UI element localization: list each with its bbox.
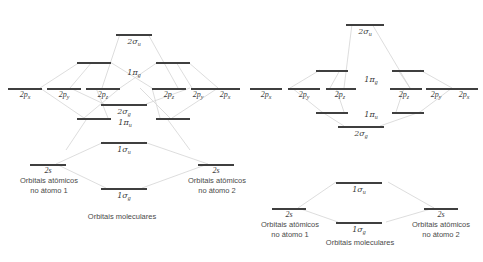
label-ao-right-2s: 2s (198, 166, 234, 176)
label-r-mo-1pi-u: 1πu (350, 110, 392, 120)
caption-right-molecular: Orbitais moleculares (300, 238, 420, 248)
level-mo-1sigma-u (101, 142, 147, 144)
label-mo-1pi-g: 1πg (113, 68, 155, 78)
label-r-mo-1pi-g: 1πg (350, 75, 392, 85)
caption-left-atom1: Orbitais atômicos no átomo 1 (4, 176, 94, 196)
caption-left-atom1-line2: no átomo 1 (4, 186, 94, 196)
level-mo-1pi-g-a (77, 62, 111, 64)
caption-left-molecular: Orbitais moleculares (62, 212, 182, 222)
level-mo-1pi-g-b (156, 62, 190, 64)
label-ao-left-2py: 2py (47, 90, 81, 100)
label-ao-left-2pz: 2pz (86, 90, 120, 100)
label-ao-left-2s: 2s (30, 166, 66, 176)
level-r-mo-2sigma-g (338, 126, 384, 128)
label-r-ao-left-2pz: 2pz (324, 90, 356, 100)
label-mo-1sigma-u: 1σu (104, 145, 144, 155)
level-r-mo-1pi-g-b (392, 70, 424, 72)
level-mo-1pi-u-b (156, 118, 190, 120)
label-r-mo-1sigma-g: 1σg (339, 225, 379, 235)
label-r-mo-1sigma-u: 1σu (339, 185, 379, 195)
caption-right-atom1: Orbitais atômicos no átomo 1 (245, 220, 335, 240)
level-r-mo-1pi-u-b (392, 112, 424, 114)
label-mo-2sigma-u: 2σu (114, 37, 154, 47)
label-r-ao-right-2s: 2s (424, 210, 458, 220)
label-mo-1sigma-g: 1σg (104, 191, 144, 201)
caption-right-atom1-line1: Orbitais atômicos (245, 220, 335, 230)
label-r-ao-left-2px: 2px (250, 90, 282, 100)
level-r-mo-1pi-g-a (316, 70, 348, 72)
caption-left-atom1-line1: Orbitais atômicos (4, 176, 94, 186)
level-r-mo-1sigma-g (336, 222, 382, 224)
label-ao-right-2px: 2px (208, 90, 242, 100)
caption-right-atom2-line1: Orbitais atômicos (396, 220, 483, 230)
level-r-mo-1pi-u-a (316, 112, 348, 114)
label-r-ao-right-2pz: 2pz (388, 90, 420, 100)
level-mo-2sigma-g (101, 104, 147, 106)
caption-right-atom2: Orbitais atômicos no átomo 2 (396, 220, 483, 240)
level-r-mo-1sigma-u (336, 182, 382, 184)
label-r-ao-left-2s: 2s (272, 210, 306, 220)
label-ao-left-2px: 2px (8, 90, 42, 100)
caption-left-atom2-line1: Orbitais atômicos (172, 176, 262, 186)
label-r-mo-2sigma-g: 2σg (341, 129, 381, 139)
label-mo-1pi-u: 1πu (104, 118, 146, 128)
level-mo-1sigma-g (101, 188, 147, 190)
caption-left-atom2: Orbitais atômicos no átomo 2 (172, 176, 262, 196)
label-r-ao-left-2py: 2py (288, 90, 320, 100)
level-r-mo-2sigma-u (346, 24, 384, 26)
label-mo-2sigma-g: 2σg (104, 107, 144, 117)
mo-diagram-figure: 2px 2py 2pz 2pz 2py 2px 2σu 1πg 2σg 1πu … (0, 0, 483, 262)
level-mo-2sigma-u (116, 34, 152, 36)
label-r-mo-2sigma-u: 2σu (345, 27, 385, 37)
label-r-ao-right-2px: 2px (448, 90, 480, 100)
caption-left-atom2-line2: no átomo 2 (172, 186, 262, 196)
